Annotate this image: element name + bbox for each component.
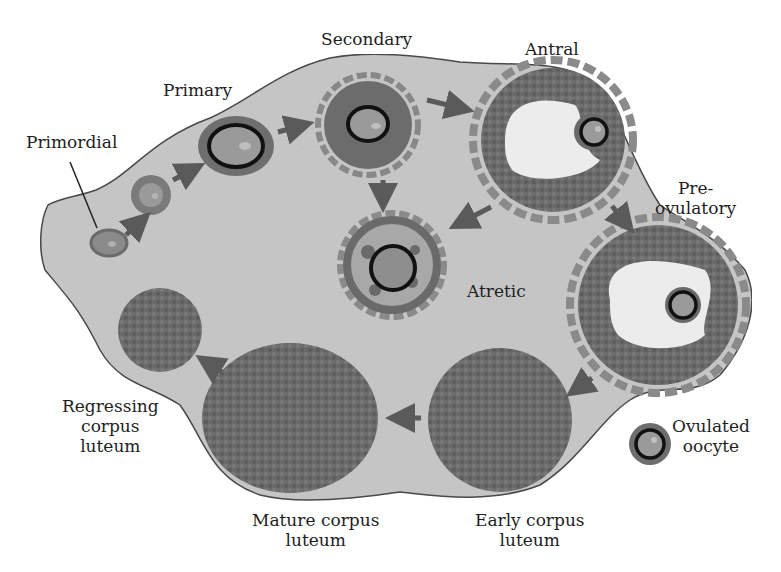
label-atretic: Atretic xyxy=(467,281,526,301)
label-mature-corpus-luteum: Mature corpusluteum xyxy=(252,510,379,550)
early-corpus-luteum xyxy=(428,348,572,492)
ovary-illustration xyxy=(0,0,781,572)
label-early-corpus-luteum: Early corpusluteum xyxy=(475,510,585,550)
primordial-follicle xyxy=(91,230,127,256)
primary-follicle xyxy=(198,116,274,176)
early-primary-follicle xyxy=(131,175,171,215)
antral-follicle xyxy=(473,60,633,220)
label-secondary: Secondary xyxy=(321,29,412,49)
label-preovulatory: Pre-ovulatory xyxy=(655,178,736,218)
ovulated-oocyte xyxy=(629,423,671,465)
label-primordial: Primordial xyxy=(26,132,117,152)
preovulatory-follicle xyxy=(570,217,746,393)
label-ovulated-oocyte: Ovulatedoocyte xyxy=(672,416,750,456)
regressing-corpus-luteum xyxy=(118,288,202,372)
label-regressing-corpus-luteum: Regressingcorpusluteum xyxy=(62,396,159,456)
ovary-diagram: Primordial Primary Secondary Antral Pre-… xyxy=(0,0,781,572)
label-primary: Primary xyxy=(163,80,232,100)
mature-corpus-luteum xyxy=(202,343,378,493)
label-antral: Antral xyxy=(525,39,579,59)
